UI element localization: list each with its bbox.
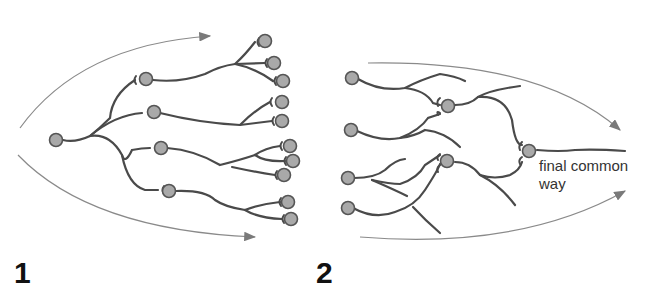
source-neuron xyxy=(50,134,63,147)
panel-label-1: 1 xyxy=(14,256,31,290)
terminal-neuron xyxy=(276,115,289,128)
terminal-neuron xyxy=(287,155,300,168)
panel-1-divergence xyxy=(18,35,300,238)
final-neuron xyxy=(523,145,536,158)
terminal-neuron xyxy=(285,213,298,226)
terminal-neuron xyxy=(284,140,297,153)
flow-arrow-bottom xyxy=(18,155,255,237)
source-neuron xyxy=(345,124,358,137)
intermediate-neuron xyxy=(163,185,176,198)
terminal-neuron xyxy=(268,57,281,70)
intermediate-neuron xyxy=(442,100,455,113)
diagram-canvas xyxy=(0,0,657,298)
terminal-neuron xyxy=(259,35,272,48)
flow-arrow-top xyxy=(20,36,210,128)
intermediate-neuron xyxy=(148,106,161,119)
terminal-neuron xyxy=(278,169,291,182)
source-neuron xyxy=(346,72,359,85)
final-common-way-axon xyxy=(537,150,625,151)
panel-label-2: 2 xyxy=(316,256,333,290)
terminal-neuron xyxy=(277,75,290,88)
intermediate-neuron xyxy=(140,73,153,86)
annotation-line-1: final common xyxy=(539,157,628,175)
flow-arrow-top xyxy=(368,63,620,130)
intermediate-neuron xyxy=(155,142,168,155)
final-common-way-label: final common way xyxy=(539,157,628,193)
source-neuron xyxy=(342,202,355,215)
source-neuron xyxy=(342,172,355,185)
terminal-neuron xyxy=(276,96,289,109)
flow-arrow-bottom xyxy=(360,191,625,239)
terminal-neuron xyxy=(282,196,295,209)
annotation-line-2: way xyxy=(539,175,628,193)
intermediate-neuron xyxy=(441,155,454,168)
panel-2-convergence xyxy=(342,63,626,239)
